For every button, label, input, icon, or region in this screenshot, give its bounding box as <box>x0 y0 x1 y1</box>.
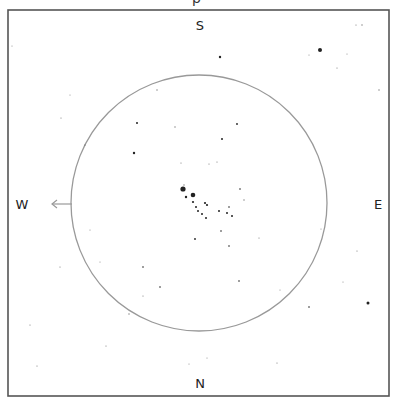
clipped-title: p <box>0 0 393 6</box>
star <box>201 213 203 215</box>
star <box>206 204 208 206</box>
finder-chart: S N W E <box>0 0 393 402</box>
star <box>231 215 233 217</box>
star <box>90 230 91 231</box>
star <box>205 217 207 219</box>
star <box>243 199 244 200</box>
star <box>29 324 30 325</box>
star <box>136 122 138 124</box>
star <box>228 206 230 208</box>
star <box>142 295 143 296</box>
star <box>343 282 344 283</box>
direction-label-east: E <box>374 197 382 212</box>
star <box>128 313 129 314</box>
star <box>84 144 85 145</box>
star <box>308 306 310 308</box>
star <box>59 266 60 267</box>
west-arrow-icon <box>52 200 72 208</box>
star <box>309 55 310 56</box>
star <box>239 188 241 190</box>
star <box>192 201 194 203</box>
field-of-view-circle <box>71 75 327 331</box>
star <box>355 24 356 25</box>
direction-label-west: W <box>16 197 29 212</box>
star <box>183 184 184 185</box>
star <box>321 229 322 230</box>
star <box>218 210 220 212</box>
star <box>356 250 357 251</box>
star <box>12 46 13 47</box>
star <box>276 362 277 363</box>
star <box>180 162 181 163</box>
star <box>347 54 348 55</box>
star <box>219 56 221 58</box>
star <box>185 196 187 198</box>
star <box>195 206 197 208</box>
star <box>133 152 135 154</box>
star <box>236 123 238 125</box>
star <box>226 212 228 214</box>
star <box>378 89 379 90</box>
chart-frame <box>8 10 389 396</box>
star <box>36 365 37 366</box>
star <box>174 126 175 127</box>
star <box>318 48 322 52</box>
star <box>142 266 144 268</box>
star <box>197 210 199 212</box>
star <box>336 67 337 68</box>
star <box>258 237 259 238</box>
direction-label-south: S <box>196 18 204 33</box>
star <box>156 89 157 90</box>
star <box>280 290 281 291</box>
star <box>191 193 196 198</box>
star <box>221 138 223 140</box>
star <box>208 163 209 164</box>
star <box>60 117 61 118</box>
star <box>189 364 190 365</box>
star <box>105 345 106 346</box>
star <box>194 238 196 240</box>
star <box>228 245 230 247</box>
star <box>70 95 71 96</box>
star <box>361 24 362 25</box>
star <box>100 262 101 263</box>
star <box>220 230 222 232</box>
star <box>238 280 240 282</box>
star <box>216 161 217 162</box>
star <box>367 302 370 305</box>
star <box>159 286 161 288</box>
star <box>204 202 206 204</box>
star <box>180 186 185 191</box>
star <box>207 358 208 359</box>
direction-label-north: N <box>195 376 205 391</box>
